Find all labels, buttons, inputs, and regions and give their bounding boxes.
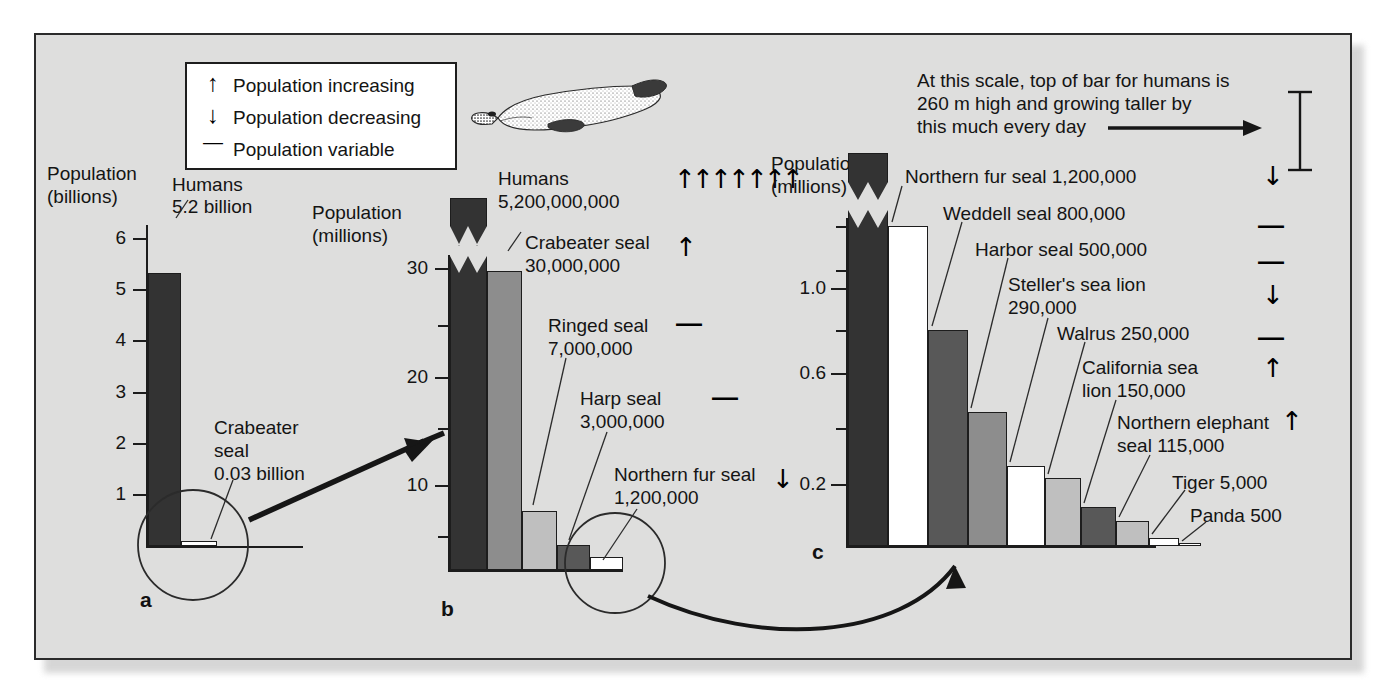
panel-a-label-humans-1: Humans	[172, 174, 243, 196]
panel-a-label-crabeater-3: 0.03 billion	[214, 463, 305, 485]
dash-icon: —	[201, 132, 225, 152]
panel-a-tick-2	[133, 443, 148, 445]
panel-b-ticklabel-20: 20	[386, 366, 428, 388]
panel-b-trend-harp: —	[712, 384, 738, 410]
panel-c-label-panda: Panda 500	[1190, 505, 1282, 527]
panel-b-x-axis	[448, 570, 623, 572]
panel-c-trend-california: ↑	[1262, 355, 1284, 381]
arrow-down-icon: ↓	[201, 103, 225, 127]
panel-a-tick-4	[133, 340, 148, 342]
panel-b-label-nfs-2: 1,200,000	[614, 487, 699, 509]
panel-a-axis-title: Population	[47, 163, 137, 185]
panel-c-label-harbor: Harbor seal 500,000	[975, 239, 1147, 261]
panel-b-label-harp-2: 3,000,000	[580, 411, 665, 433]
panel-c-label-elephant-1: Northern elephant	[1117, 412, 1269, 434]
panel-c-tick-1-2	[836, 270, 846, 272]
legend-label-variable: Population variable	[233, 139, 395, 161]
panel-b-trend-ringed: —	[676, 310, 702, 336]
panel-a-ticklabel-6: 6	[96, 227, 126, 249]
panel-a-tick-5	[133, 289, 148, 291]
panel-c-label-california-1: California sea	[1082, 357, 1198, 379]
panel-b-label-humans-2: 5,200,000,000	[498, 191, 620, 213]
panel-b-label-ringed-2: 7,000,000	[548, 338, 633, 360]
panel-c-tick-0-8	[836, 330, 846, 332]
panel-c-label-tiger: Tiger 5,000	[1172, 472, 1267, 494]
panel-b-label-crabeater-2: 30,000,000	[525, 255, 620, 277]
panel-c-bar-weddell	[928, 330, 968, 546]
panel-c-bar-steller	[1007, 466, 1045, 546]
panel-b-ticklabel-30: 30	[386, 257, 428, 279]
panel-b-label-humans-1: Humans	[498, 168, 569, 190]
panel-b-trend-crabeater: ↑	[675, 234, 697, 260]
panel-c-bar-humans	[848, 153, 888, 546]
panel-c-label-steller-2: 290,000	[1008, 297, 1077, 319]
figure-root: ↑ Population increasing ↓ Population dec…	[0, 0, 1400, 696]
panel-c-label-steller-1: Steller's sea lion	[1008, 274, 1146, 296]
panel-c-bar-walrus	[1045, 478, 1081, 546]
panel-c-x-axis	[846, 546, 1156, 548]
panel-c-tick-0-2	[831, 484, 846, 486]
panel-a-bar-crabeater	[181, 541, 217, 546]
panel-c-bar-panda	[1179, 543, 1201, 546]
panel-a-axis-title-2: (billions)	[47, 186, 118, 208]
panel-a-letter: a	[140, 588, 152, 612]
panel-b-bar-humans	[450, 198, 487, 570]
panel-c-ticklabel-0-6: 0.6	[780, 362, 826, 384]
panel-c-bar-elephant	[1116, 521, 1149, 546]
panel-b-tick-5	[438, 536, 448, 538]
panel-b-bar-northern-fur	[590, 557, 623, 570]
panel-c-bar-tiger	[1149, 538, 1179, 546]
panel-c-trend-steller: ↓	[1262, 282, 1284, 308]
panel-b-label-nfs-1: Northern fur seal	[614, 464, 756, 486]
panel-c-letter: c	[812, 540, 824, 564]
annotation-line-3: this much every day	[917, 116, 1086, 138]
panel-a-tick-1	[133, 494, 148, 496]
panel-a-tick-3	[133, 392, 148, 394]
legend-box: ↑ Population increasing ↓ Population dec…	[185, 62, 457, 170]
panel-c-label-walrus: Walrus 250,000	[1057, 323, 1189, 345]
panel-c-tick-0-4	[836, 428, 846, 430]
panel-b-label-ringed-1: Ringed seal	[548, 315, 648, 337]
panel-a-bar-humans	[148, 273, 181, 546]
panel-b-tick-30	[435, 268, 450, 270]
panel-b-tick-20	[435, 377, 450, 379]
panel-b-tick-15	[438, 428, 448, 430]
panel-c-trend-elephant: ↑	[1281, 408, 1303, 434]
panel-b-label-crabeater-1: Crabeater seal	[525, 232, 650, 254]
legend-label-increasing: Population increasing	[233, 75, 415, 97]
legend-label-decreasing: Population decreasing	[233, 107, 421, 129]
panel-a-ticklabel-3: 3	[96, 381, 126, 403]
panel-a-label-crabeater-1: Crabeater	[214, 417, 299, 439]
panel-a-ticklabel-1: 1	[96, 483, 126, 505]
panel-b-bar-crabeater	[487, 271, 522, 570]
panel-b-letter: b	[441, 597, 454, 621]
arrow-up-icon: ↑	[201, 71, 225, 95]
panel-c-label-california-2: lion 150,000	[1082, 380, 1186, 402]
panel-c-label-weddell: Weddell seal 800,000	[943, 203, 1125, 225]
panel-c-trend-harbor: —	[1258, 248, 1284, 274]
panel-c-trend-nfs: ↓	[1262, 163, 1284, 189]
annotation-line-1: At this scale, top of bar for humans is	[917, 70, 1230, 92]
panel-c-trend-walrus: —	[1258, 324, 1284, 350]
panel-b-axis-title-2: (millions)	[312, 225, 388, 247]
panel-a-label-crabeater-2: seal	[214, 440, 249, 462]
panel-c-label-nfs: Northern fur seal 1,200,000	[905, 166, 1136, 188]
panel-b-ticklabel-10: 10	[386, 474, 428, 496]
panel-b-bar-harp	[557, 545, 590, 570]
panel-c-tick-1-0	[831, 288, 846, 290]
panel-c-ticklabel-1-0: 1.0	[780, 277, 826, 299]
panel-c-axis-title-2: (millions)	[771, 176, 847, 198]
panel-a-label-humans-2: 5.2 billion	[172, 196, 252, 218]
panel-a-tick-6	[133, 238, 148, 240]
panel-b-tick-25	[438, 325, 448, 327]
panel-c-label-elephant-2: seal 115,000	[1117, 435, 1224, 457]
panel-c-tick-1-4	[836, 226, 846, 228]
panel-a-x-axis	[146, 546, 303, 548]
panel-a-ticklabel-5: 5	[96, 278, 126, 300]
panel-a-ticklabel-4: 4	[96, 329, 126, 351]
panel-c-trend-weddell: —	[1258, 212, 1284, 238]
annotation-line-2: 260 m high and growing taller by	[917, 93, 1192, 115]
panel-c-ticklabel-0-2: 0.2	[780, 473, 826, 495]
panel-b-axis-title: Population	[312, 202, 402, 224]
panel-c-bar-california	[1081, 507, 1116, 546]
